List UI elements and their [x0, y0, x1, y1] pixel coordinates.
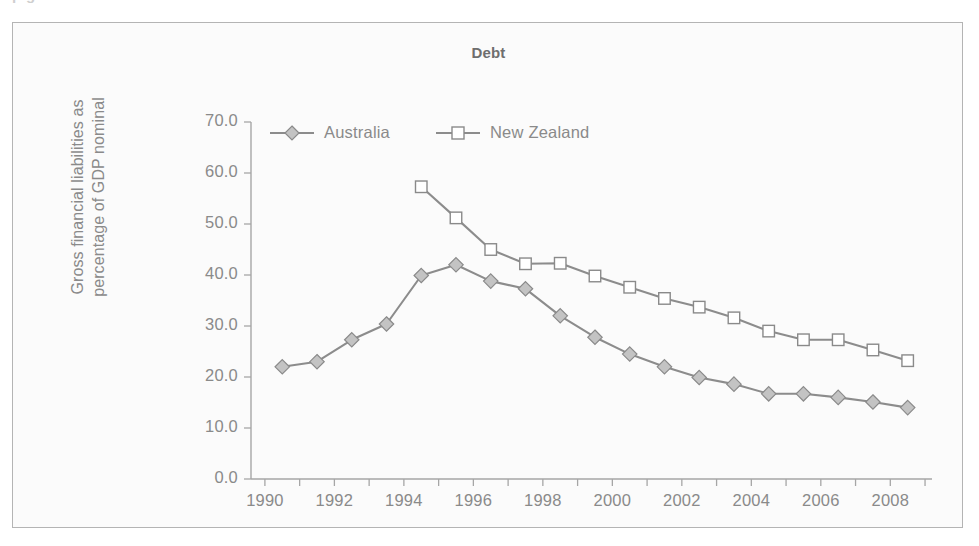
data-point-new-zealand [624, 281, 636, 293]
data-point-new-zealand [450, 212, 462, 224]
data-point-australia [761, 387, 775, 401]
x-tick-label: 2008 [860, 491, 920, 510]
data-point-australia [275, 360, 289, 374]
diamond-icon [268, 124, 316, 142]
data-point-new-zealand [728, 312, 740, 324]
legend-entry-australia[interactable]: Australia [268, 123, 390, 142]
data-point-new-zealand [832, 334, 844, 346]
x-tick-label: 2000 [582, 491, 642, 510]
data-point-australia [831, 390, 845, 404]
data-point-australia [692, 370, 706, 384]
data-point-australia [796, 387, 810, 401]
cut-off-heading-text: p g [12, 0, 35, 3]
legend-label-australia: Australia [324, 123, 390, 142]
chart-svg [13, 23, 964, 529]
data-point-new-zealand [485, 244, 497, 256]
chart-legend: Australia New Zealand [268, 123, 589, 142]
data-point-new-zealand [416, 181, 428, 193]
plot-area: 0.010.020.030.040.050.060.070.0 19901992… [13, 23, 964, 529]
cut-off-heading-strip: p g [0, 0, 979, 18]
data-point-australia [310, 355, 324, 369]
y-tick-label: 30.0 [180, 315, 238, 334]
data-point-australia [657, 360, 671, 374]
square-icon [434, 124, 482, 142]
x-tick-label: 1992 [304, 491, 364, 510]
legend-entry-new-zealand[interactable]: New Zealand [434, 123, 589, 142]
data-point-australia [449, 258, 463, 272]
y-tick-label: 60.0 [180, 162, 238, 181]
data-point-new-zealand [520, 258, 532, 270]
y-axis-title-line-2: percentage of GDP nominal [88, 47, 109, 347]
x-tick-label: 2006 [791, 491, 851, 510]
x-tick-marks [265, 479, 925, 486]
data-point-new-zealand [693, 301, 705, 313]
page-canvas: p g Debt 0.010.020.030.040.050.060.070.0… [0, 0, 979, 546]
data-point-australia [727, 377, 741, 391]
data-point-new-zealand [589, 270, 601, 282]
data-point-new-zealand [798, 334, 810, 346]
data-point-australia [866, 395, 880, 409]
data-point-australia [484, 274, 498, 288]
data-point-australia [379, 317, 393, 331]
data-point-australia [588, 330, 602, 344]
y-tick-marks [244, 122, 251, 479]
data-point-new-zealand [902, 355, 914, 367]
figure-frame: Debt 0.010.020.030.040.050.060.070.0 199… [12, 22, 963, 528]
data-point-australia [345, 333, 359, 347]
data-point-new-zealand [659, 293, 671, 305]
x-tick-label: 1994 [374, 491, 434, 510]
x-tick-label: 1990 [235, 491, 295, 510]
x-tick-label: 2004 [721, 491, 781, 510]
y-tick-label: 50.0 [180, 213, 238, 232]
data-point-new-zealand [867, 344, 879, 356]
data-point-new-zealand [763, 325, 775, 337]
y-tick-label: 0.0 [180, 468, 238, 487]
data-point-australia [623, 347, 637, 361]
y-tick-label: 10.0 [180, 417, 238, 436]
y-axis-title: Gross financial liabilities as percentag… [67, 47, 111, 347]
legend-label-new-zealand: New Zealand [490, 123, 589, 142]
x-tick-label: 1998 [513, 491, 573, 510]
x-tick-label: 1996 [443, 491, 503, 510]
y-tick-label: 70.0 [180, 111, 238, 130]
data-point-australia [414, 268, 428, 282]
data-point-new-zealand [554, 258, 566, 270]
x-tick-label: 2002 [652, 491, 712, 510]
series-layer [275, 181, 915, 415]
y-axis-title-line-1: Gross financial liabilities as [67, 47, 88, 347]
data-point-australia [900, 400, 914, 414]
y-tick-label: 20.0 [180, 366, 238, 385]
y-tick-label: 40.0 [180, 264, 238, 283]
